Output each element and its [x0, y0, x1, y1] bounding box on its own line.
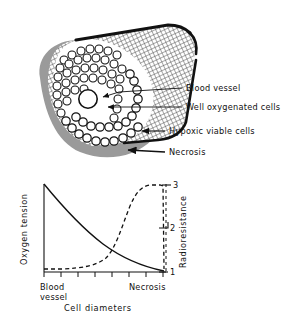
series-oxygen-tension: [44, 184, 164, 271]
chart-xaxis-right-annotation: Necrosis: [129, 282, 166, 292]
figure-panel: Blood vessel Well oxygenated cells Hypox…: [0, 0, 289, 325]
chart-ylabel: Oxygen tension: [19, 194, 29, 265]
callout-label-well-oxygenated: Well oxygenated cells: [186, 102, 280, 112]
chart-y2-tick-2: 2: [170, 223, 175, 233]
series-radioresistance: [44, 185, 164, 269]
blood-vessel-lumen: [79, 90, 97, 108]
callout-label-necrosis: Necrosis: [169, 147, 206, 157]
chart-xaxis-left-annotation-line1: Blood: [40, 282, 64, 292]
chart-xaxis-left-annotation-line2: vessel: [40, 292, 67, 302]
chart-y2-tick-3: 3: [173, 180, 178, 190]
oxygen-radioresistance-chart: 1 2 3 Oxygen tension Radioresistance Blo…: [19, 180, 188, 313]
callout-label-blood-vessel: Blood vessel: [186, 83, 240, 93]
chart-y2label: Radioresistance: [178, 196, 188, 269]
tumour-cord-diagram: Blood vessel Well oxygenated cells Hypox…: [39, 25, 280, 157]
callout-label-hypoxic-viable: Hypoxic viable cells: [169, 126, 255, 136]
chart-x-ticks: [44, 272, 163, 277]
figure-svg: Blood vessel Well oxygenated cells Hypox…: [0, 0, 289, 325]
chart-y2-tick-1: 1: [170, 267, 175, 277]
chart-xlabel: Cell diameters: [64, 303, 132, 313]
